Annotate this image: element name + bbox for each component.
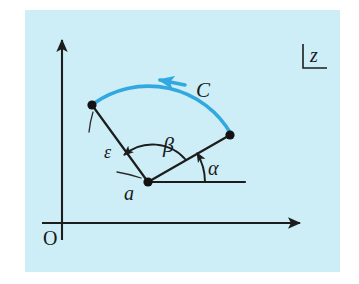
epsilon-tick-group	[89, 112, 141, 178]
figure-container: z	[0, 0, 359, 284]
point-arc-end	[87, 100, 96, 109]
label-center-a: a	[124, 182, 134, 204]
contour-group	[93, 80, 231, 134]
label-radius-epsilon: ε	[104, 142, 112, 162]
contour-arc-C	[93, 86, 231, 134]
label-angle-beta: β	[162, 132, 174, 157]
label-angle-alpha: α	[208, 157, 219, 179]
contour-arrow-segment	[160, 80, 185, 85]
plane-label-z: z	[309, 44, 318, 66]
epsilon-tick-inner	[117, 172, 141, 178]
radius-ray-epsilon	[92, 105, 148, 182]
angle-alpha-group	[197, 153, 205, 182]
plane-label-group: z	[303, 44, 327, 68]
point-center-a	[143, 177, 152, 186]
diagram-canvas: z	[0, 0, 359, 284]
angle-beta-arc	[124, 145, 186, 160]
angle-alpha-arc	[197, 153, 205, 182]
angle-beta-group	[124, 145, 186, 160]
label-origin: O	[43, 227, 57, 249]
epsilon-tick-outer	[89, 112, 93, 132]
point-arc-start	[225, 130, 234, 139]
label-contour-C: C	[196, 78, 211, 102]
